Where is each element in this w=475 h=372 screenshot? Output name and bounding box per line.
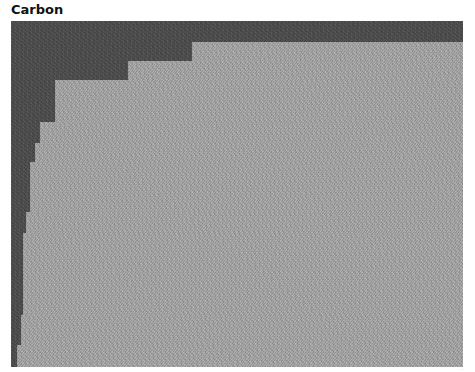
watermark-text: · ·· · xyxy=(457,366,467,372)
light-region-step-10 xyxy=(17,345,463,367)
figure-title: Carbon xyxy=(11,1,63,19)
carbon-image xyxy=(11,21,463,367)
